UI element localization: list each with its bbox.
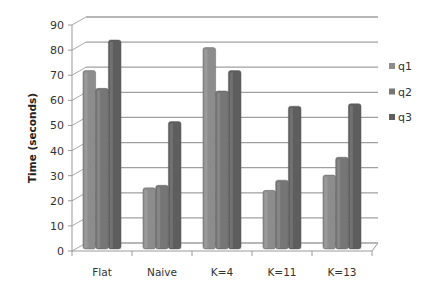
bar-q3-K=13 (348, 104, 361, 249)
bar-q1-K=4 (203, 48, 216, 249)
y-tick-label: 20 (50, 195, 64, 208)
bar-q3-K=4 (228, 71, 241, 250)
legend-item-q2: q2 (389, 86, 412, 99)
legend-label: q3 (398, 111, 412, 124)
bar-q2-K=4 (216, 91, 229, 249)
bar-q2-Flat (96, 88, 109, 249)
y-tick-label: 90 (50, 19, 64, 32)
y-tick-label: 40 (50, 145, 64, 158)
bar-q2-K=11 (276, 180, 289, 249)
bar-q3-Flat (108, 40, 121, 249)
bar-q1-Naive (143, 188, 156, 249)
y-tick-label: 30 (50, 170, 64, 183)
y-tick-label: 70 (50, 69, 64, 82)
y-tick-label: 10 (50, 220, 64, 233)
x-axis-labels: FlatNaiveK=4K=11K=13 (92, 266, 356, 278)
bar-q2-Naive (156, 185, 169, 249)
bar-q1-K=11 (263, 190, 276, 249)
y-tick-label: 60 (50, 94, 64, 107)
legend-swatch (389, 63, 395, 69)
y-tick-label: 80 (50, 44, 64, 57)
legend-label: q2 (398, 86, 412, 99)
y-axis-title: Time (seconds) (26, 93, 38, 183)
x-tick-label: Naive (147, 266, 177, 278)
bar-q2-K=13 (336, 157, 349, 249)
bar-q1-Flat (83, 71, 96, 250)
legend-swatch (389, 114, 395, 120)
bar-q1-K=13 (323, 175, 336, 249)
gridline-slant (72, 42, 86, 50)
y-tick-label: 0 (57, 245, 64, 258)
x-tick-label: K=4 (211, 266, 234, 278)
x-tick-label: K=11 (267, 266, 296, 278)
y-tick-label: 50 (50, 119, 64, 132)
legend-label: q1 (398, 60, 412, 73)
legend: q1q2q3 (389, 60, 412, 124)
floor-edge (372, 243, 378, 251)
x-tick-label: Flat (92, 266, 112, 278)
bar-chart: 0102030405060708090 FlatNaiveK=4K=11K=13… (0, 0, 436, 299)
legend-item-q1: q1 (389, 60, 412, 73)
x-tick-label: K=13 (327, 266, 356, 278)
legend-item-q3: q3 (389, 111, 412, 124)
legend-swatch (389, 89, 395, 95)
bar-q3-K=11 (288, 106, 301, 249)
bar-q3-Naive (168, 122, 181, 250)
gridline-slant (72, 17, 86, 25)
